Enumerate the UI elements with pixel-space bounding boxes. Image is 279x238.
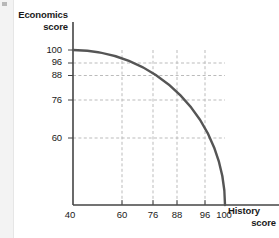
x-tick-label-60: 60 bbox=[110, 209, 134, 220]
y-tick-label-100: 100 bbox=[28, 44, 62, 55]
x-tick-label-100: 100 bbox=[212, 209, 236, 220]
vertical-gridlines bbox=[122, 50, 205, 205]
horizontal-gridlines bbox=[73, 63, 225, 138]
chart-figure: Economics score History score 100 96 88 … bbox=[0, 0, 279, 238]
ppf-curve bbox=[73, 50, 225, 205]
x-tick-label-88: 88 bbox=[165, 209, 189, 220]
x-tick-label-40: 40 bbox=[58, 209, 82, 220]
x-tick-label-76: 76 bbox=[141, 209, 165, 220]
y-axis-title-line2: score bbox=[8, 21, 68, 33]
y-tick-label-96: 96 bbox=[28, 56, 62, 67]
plot-area bbox=[0, 0, 279, 238]
y-tick-label-76: 76 bbox=[28, 94, 62, 105]
y-tick-label-88: 88 bbox=[28, 69, 62, 80]
y-axis-title: Economics score bbox=[8, 9, 68, 32]
chart-svg bbox=[0, 0, 279, 238]
y-axis-title-line1: Economics bbox=[8, 9, 68, 21]
y-tick-label-60: 60 bbox=[28, 132, 62, 143]
